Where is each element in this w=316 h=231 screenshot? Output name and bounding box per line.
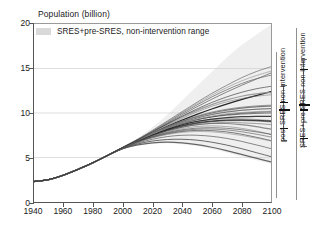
y-tick-mark-10 [29,113,34,114]
population-projection-figure: Population (billion) 05101520 1940196019… [0,0,316,231]
y-tick-mark-15 [29,68,34,69]
x-tick-label-1960: 1960 [48,206,78,216]
legend-label-range: SRES+pre-SRES, non-intervention range [57,27,209,36]
y-tick-label-5: 5 [8,153,30,163]
x-tick-label-2080: 2080 [227,206,257,216]
legend-swatch-range [36,28,51,35]
x-tick-mark-2020 [153,203,154,207]
annotation-guide-line-1 [296,28,297,200]
x-tick-label-2000: 2000 [108,206,138,216]
chart-canvas [34,24,271,202]
x-tick-mark-2080 [242,203,243,207]
x-tick-mark-2040 [182,203,183,207]
x-tick-label-2020: 2020 [138,206,168,216]
y-axis-title: Population (billion) [38,9,110,19]
y-tick-label-20: 20 [8,18,30,28]
x-tick-mark-1960 [63,203,64,207]
plot-area [33,23,272,203]
range-label-sres-pre-sres: SRES+pre-SRES non-intervention [298,33,307,149]
x-tick-label-2060: 2060 [197,206,227,216]
annotation-guide-line-0 [276,52,277,198]
x-tick-label-2040: 2040 [167,206,197,216]
legend: SRES+pre-SRES, non-intervention range [36,27,209,36]
x-tick-label-2100: 2100 [257,206,287,216]
y-tick-mark-5 [29,158,34,159]
y-tick-mark-0 [29,203,34,204]
x-tick-label-1980: 1980 [78,206,108,216]
x-tick-mark-1980 [93,203,94,207]
y-tick-label-10: 10 [8,108,30,118]
range-label-post-sres: post-SRES non-intervention [278,48,287,142]
x-tick-mark-2000 [123,203,124,207]
y-tick-mark-20 [29,23,34,24]
y-tick-label-15: 15 [8,63,30,73]
x-tick-label-1940: 1940 [18,206,48,216]
x-tick-mark-2060 [212,203,213,207]
